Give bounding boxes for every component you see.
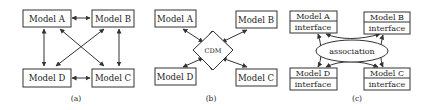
- model-d-label: Model D: [29, 73, 66, 83]
- arrow-d-cdm: [183, 58, 203, 67]
- model-c-label: Model C: [370, 69, 404, 78]
- model-b-label: Model B: [370, 13, 404, 22]
- arrow-b-cdm: [222, 30, 247, 42]
- arrow-a-b: [326, 34, 380, 39]
- arrow-d-c: [326, 62, 378, 67]
- cdm-label: CDM: [205, 47, 222, 55]
- model-a-interface-box: Model A interface: [290, 11, 337, 33]
- model-c-box: Model C: [92, 69, 134, 87]
- panel-a: Model A Model B Model D Model C (a): [23, 10, 134, 103]
- model-d-interface-box: Model D interface: [290, 68, 337, 90]
- model-a-box: Model A: [155, 10, 196, 27]
- caption-b: (b): [206, 94, 217, 103]
- diagram-canvas: Model A Model B Model D Model C (a) CDM: [0, 0, 434, 110]
- panel-c: association Model A interface Model B in…: [290, 11, 410, 103]
- model-b-interface-label: interface: [369, 24, 406, 33]
- caption-a: (a): [71, 94, 81, 103]
- model-c-box: Model C: [236, 69, 277, 86]
- model-d-box: Model D: [155, 68, 196, 85]
- model-c-label: Model C: [238, 73, 274, 83]
- model-d-box: Model D: [23, 69, 71, 87]
- caption-c: (c): [352, 94, 362, 103]
- model-a-label: Model A: [157, 14, 194, 24]
- model-a-label: Model A: [29, 14, 66, 24]
- cdm-hub: CDM: [193, 31, 233, 70]
- model-b-label: Model B: [95, 14, 131, 24]
- model-d-interface-label: interface: [295, 80, 332, 89]
- model-b-interface-box: Model B interface: [364, 12, 410, 34]
- arrow-a-cdm: [183, 29, 203, 42]
- panel-b: CDM Model A Model B Model D Model C (b): [155, 10, 277, 103]
- association-hub: association: [316, 40, 388, 62]
- model-b-box: Model B: [92, 10, 134, 27]
- model-a-label: Model A: [296, 12, 330, 21]
- model-b-box: Model B: [236, 11, 277, 28]
- model-c-interface-box: Model C interface: [364, 68, 410, 90]
- model-a-box: Model A: [23, 10, 71, 27]
- model-b-label: Model B: [238, 15, 274, 25]
- model-d-label: Model D: [296, 69, 330, 78]
- model-d-label: Model D: [157, 72, 194, 82]
- model-c-interface-label: interface: [369, 80, 406, 89]
- model-c-label: Model C: [95, 73, 131, 83]
- association-label: association: [329, 47, 374, 56]
- arrow-c-cdm: [222, 58, 247, 67]
- model-a-interface-label: interface: [295, 23, 332, 32]
